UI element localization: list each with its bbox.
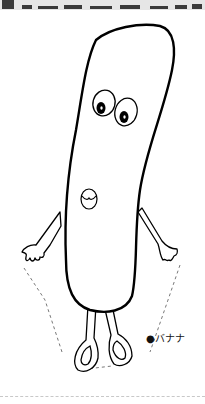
left-arm [22, 212, 61, 261]
bottom-divider [0, 396, 205, 397]
mouth [81, 189, 97, 209]
caption-label: ●バナナ [146, 330, 185, 345]
right-arm [138, 208, 177, 261]
legs [75, 305, 132, 371]
banana-body [65, 25, 174, 312]
